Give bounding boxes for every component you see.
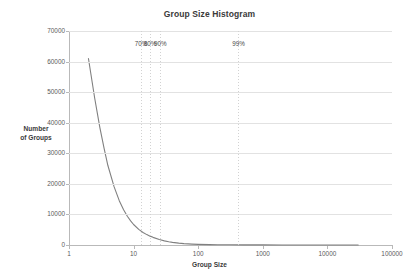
x-axis-tick-label: 1 [46,250,92,257]
x-axis-tick-label: 100 [175,250,221,257]
y-axis-tick-label: 50000 [25,88,65,95]
grid-line-horizontal [69,123,392,124]
x-axis-tick-label: 10 [111,250,157,257]
x-axis-tick-label: 100000 [369,250,415,257]
percentile-line [141,31,142,245]
x-axis-tick [327,246,328,249]
grid-line-horizontal [69,214,392,215]
y-axis-tick-label: 60000 [25,58,65,65]
grid-line-horizontal [69,92,392,93]
x-axis-tick [198,246,199,249]
chart-container: Group Size Histogram 0100002000030000400… [0,0,419,276]
grid-line-horizontal [69,153,392,154]
grid-line-horizontal [69,62,392,63]
y-axis-tick-label: 0 [25,241,65,248]
y-axis-tick-label: 30000 [25,149,65,156]
y-axis-title: Number of Groups [8,125,64,142]
y-axis-title-line1: Number [8,125,64,134]
x-axis-tick [69,246,70,249]
grid-line-horizontal [69,31,392,32]
plot-area [69,31,392,245]
percentile-line [160,31,161,245]
grid-line-horizontal [69,184,392,185]
y-axis-tick-label: 20000 [25,180,65,187]
y-axis-tick-label: 70000 [25,27,65,34]
percentile-line [150,31,151,245]
data-series-line [69,31,392,245]
percentile-line [238,31,239,245]
y-axis-tick-label: 10000 [25,210,65,217]
x-axis-tick [263,246,264,249]
y-axis-title-line2: of Groups [8,134,64,143]
x-axis-tick [134,246,135,249]
x-axis-title: Group Size [0,261,419,268]
x-axis-tick [392,246,393,249]
percentile-label: 90% [143,40,177,47]
x-axis-tick-label: 1000 [240,250,286,257]
x-axis-tick-label: 10000 [304,250,350,257]
percentile-label: 99% [221,40,255,47]
